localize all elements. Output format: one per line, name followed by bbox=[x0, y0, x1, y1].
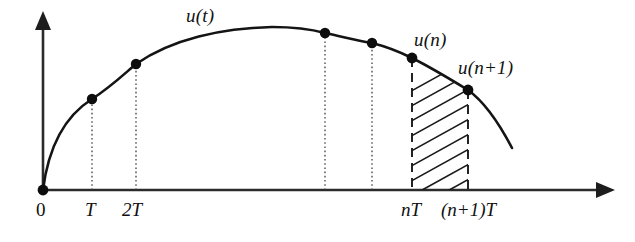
sample-dot-n-plus-1-T bbox=[463, 85, 474, 96]
x-tick-label-2T: 2T bbox=[122, 200, 142, 219]
sample-dot-2T bbox=[131, 59, 141, 69]
sample-label-u-n-plus-1: u(n+1) bbox=[458, 58, 513, 77]
sample-dot-origin bbox=[38, 185, 49, 196]
x-tick-label-nT: nT bbox=[401, 200, 421, 219]
sample-dot-nT bbox=[407, 53, 418, 64]
droplines bbox=[92, 33, 372, 190]
sample-dot-mid-2 bbox=[367, 38, 377, 48]
x-axis-arrowhead bbox=[596, 182, 615, 198]
x-tick-label-n-plus-1-T: (n+1)T bbox=[441, 200, 496, 219]
signal-curve bbox=[43, 27, 512, 190]
sample-label-u-n: u(n) bbox=[414, 30, 446, 49]
x-tick-label-0: 0 bbox=[36, 200, 46, 219]
sample-points bbox=[38, 28, 474, 196]
x-tick-label-T: T bbox=[85, 200, 96, 219]
figure-container: u(t) u(n) u(n+1) 0 T 2T nT (n+1)T bbox=[0, 0, 635, 242]
curve-label: u(t) bbox=[186, 6, 214, 25]
x-axis bbox=[43, 182, 615, 198]
sample-dot-mid-1 bbox=[320, 28, 330, 38]
sample-dot-T bbox=[87, 94, 97, 104]
y-axis-arrowhead bbox=[35, 11, 51, 30]
